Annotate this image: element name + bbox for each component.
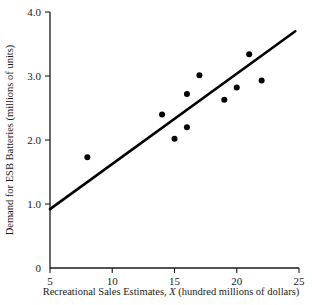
scatter-plot-figure: 510152025 01.02.03.04.0 Recreational Sal… <box>0 0 312 305</box>
x-label-suffix: (hundred millions of dollars) <box>176 286 300 298</box>
data-point <box>184 91 190 97</box>
chart-canvas: 510152025 01.02.03.04.0 Recreational Sal… <box>0 0 312 305</box>
data-points <box>84 51 264 160</box>
data-point <box>246 51 252 57</box>
x-axis-label: Recreational Sales Estimates, X (hundred… <box>43 286 300 298</box>
y-axis-ticks: 01.02.03.04.0 <box>27 6 50 274</box>
y-tick-label: 3.0 <box>27 70 41 82</box>
y-tick-label: 4.0 <box>27 6 41 18</box>
regression-line <box>50 31 295 209</box>
x-axis-ticks: 510152025 <box>47 268 305 287</box>
data-point <box>84 154 90 160</box>
x-label-prefix: Recreational Sales Estimates, <box>43 286 170 297</box>
data-point <box>234 85 240 91</box>
data-point <box>159 111 165 117</box>
y-tick-label: 0 <box>36 262 42 274</box>
y-tick-label: 2.0 <box>27 134 41 146</box>
data-point <box>184 124 190 130</box>
data-point <box>172 136 178 142</box>
y-tick-label: 1.0 <box>27 198 41 210</box>
data-point <box>259 77 265 83</box>
y-axis-label: Demand for ESB Batteries (millions of un… <box>4 44 16 235</box>
data-point <box>196 72 202 78</box>
data-point <box>221 97 227 103</box>
